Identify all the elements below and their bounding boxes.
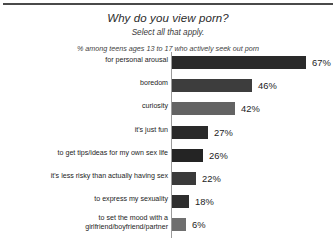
bar-value-label: 67% <box>312 57 331 68</box>
bar-category-label: to get tips/ideas for my own sex life <box>4 149 168 158</box>
bar-row: to express my sexuality18% <box>0 195 336 215</box>
bar <box>172 79 252 92</box>
bar-category-label: it's less risky than actually having sex <box>4 172 168 181</box>
chart-container: Why do you view porn? Select all that ap… <box>0 0 336 245</box>
bar-value-label: 22% <box>202 173 221 184</box>
top-divider-rule <box>3 3 333 5</box>
chart-subtitle: Select all that apply. <box>0 27 336 39</box>
bar-category-label: curiosity <box>4 102 168 111</box>
bar-value-label: 26% <box>209 150 228 161</box>
plot-area: for personal arousal67%boredom46%curiosi… <box>0 52 336 242</box>
bar-value-label: 27% <box>214 127 233 138</box>
bar-row: it's just fun27% <box>0 126 336 146</box>
bar-value-label: 18% <box>195 196 214 207</box>
bar <box>172 126 208 139</box>
bar-value-label: 46% <box>258 80 277 91</box>
bar <box>172 102 235 115</box>
chart-title: Why do you view porn? <box>0 11 336 25</box>
bar <box>172 56 306 69</box>
bar <box>172 218 186 231</box>
bar-row: boredom46% <box>0 79 336 99</box>
title-block: Why do you view porn? Select all that ap… <box>0 11 336 54</box>
bar-category-label: to express my sexuality <box>4 195 168 204</box>
bar-value-label: 42% <box>241 103 260 114</box>
bar-row: for personal arousal67% <box>0 56 336 76</box>
bar-value-label: 6% <box>192 219 206 230</box>
bar <box>172 149 203 162</box>
bar-category-label: boredom <box>4 79 168 88</box>
bar-category-label: for personal arousal <box>4 56 168 65</box>
bar-row: to get tips/ideas for my own sex life26% <box>0 149 336 169</box>
bar-row: to set the mood with agirlfriend/boyfrie… <box>0 218 336 238</box>
bar <box>172 195 189 208</box>
bar <box>172 172 196 185</box>
bar-row: it's less risky than actually having sex… <box>0 172 336 192</box>
bar-row: curiosity42% <box>0 102 336 122</box>
bar-category-label: to set the mood with agirlfriend/boyfrie… <box>4 214 168 231</box>
bar-category-label: it's just fun <box>4 126 168 135</box>
